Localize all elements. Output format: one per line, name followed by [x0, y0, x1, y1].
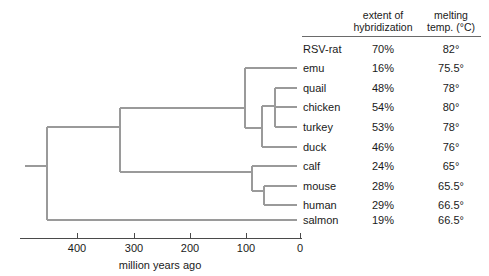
melting-value-calf: 65° — [420, 161, 482, 172]
extent-value-human: 29% — [352, 200, 414, 211]
leaf-label-duck: duck — [303, 142, 326, 153]
leaf-label-mouse: mouse — [303, 181, 336, 192]
melting-value-emu: 75.5° — [420, 63, 482, 74]
extent-value-duck: 46% — [352, 142, 414, 153]
extent-value-emu: 16% — [352, 63, 414, 74]
leaf-label-human: human — [303, 200, 337, 211]
extent-value-mouse: 28% — [352, 181, 414, 192]
melting-value-salmon: 66.5° — [420, 215, 482, 226]
extent-value-quail: 48% — [352, 83, 414, 94]
extent-value-calf: 24% — [352, 161, 414, 172]
phylogenetic-tree-figure: extent of hybridization melting temp. (°… — [0, 0, 489, 276]
extent-value-turkey: 53% — [352, 122, 414, 133]
melting-value-duck: 76° — [420, 142, 482, 153]
leaf-label-emu: emu — [303, 63, 324, 74]
leaf-label-rsv-rat: RSV-rat — [303, 44, 342, 55]
extent-value-rsv-rat: 70% — [352, 44, 414, 55]
leaf-label-turkey: turkey — [303, 122, 333, 133]
melting-value-mouse: 65.5° — [420, 181, 482, 192]
melting-value-quail: 78° — [420, 83, 482, 94]
axis-tick-label-400: 400 — [55, 243, 99, 254]
melting-value-human: 66.5° — [420, 200, 482, 211]
melting-value-rsv-rat: 82° — [420, 44, 482, 55]
axis-tick-label-300: 300 — [112, 243, 156, 254]
leaf-label-quail: quail — [303, 83, 326, 94]
axis-title: million years ago — [60, 260, 260, 271]
axis-tick-label-200: 200 — [168, 243, 212, 254]
column-header-melting: melting temp. (°C) — [418, 10, 484, 33]
axis-tick-label-100: 100 — [224, 243, 268, 254]
extent-value-salmon: 19% — [352, 215, 414, 226]
extent-value-chicken: 54% — [352, 102, 414, 113]
tree-diagram — [0, 0, 489, 276]
leaf-label-calf: calf — [303, 161, 320, 172]
melting-value-turkey: 78° — [420, 122, 482, 133]
melting-value-chicken: 80° — [420, 102, 482, 113]
column-header-extent: extent of hybridization — [340, 10, 426, 33]
leaf-label-salmon: salmon — [303, 215, 338, 226]
axis-tick-label-0: 0 — [284, 243, 316, 254]
leaf-label-chicken: chicken — [303, 102, 340, 113]
